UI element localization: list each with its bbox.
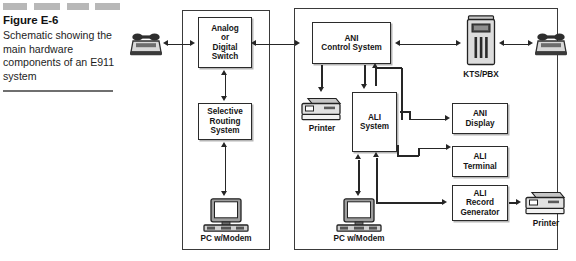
box-ali-terminal[interactable]: ALI Terminal bbox=[452, 146, 508, 177]
connector-ali-terminal-v2 bbox=[418, 148, 420, 156]
box-ali-record-generator[interactable]: ALI Record Generator bbox=[452, 185, 508, 221]
connector-ali-anidisplay-h2 bbox=[409, 119, 445, 121]
connector-anidisplay-return-h bbox=[376, 67, 402, 69]
box-ani-control-system[interactable]: ANI Control System bbox=[312, 22, 391, 64]
printer-left-icon bbox=[300, 96, 344, 122]
arrowhead-down bbox=[318, 87, 324, 92]
connector-ani-printer bbox=[321, 65, 323, 88]
connector-kts-phone bbox=[503, 44, 528, 46]
caption-divider bbox=[3, 90, 113, 92]
figure-page: Figure E-6 Schematic showing the main ha… bbox=[0, 0, 576, 261]
connector-ali-terminal-h2 bbox=[418, 148, 446, 150]
arrowhead-right bbox=[516, 199, 521, 205]
arrowhead-left bbox=[499, 40, 504, 46]
caption-pc-modem-right: PC w/Modem bbox=[319, 234, 399, 243]
box-ali-system[interactable]: ALI System bbox=[352, 92, 397, 152]
dash-segment bbox=[67, 3, 89, 10]
caption-printer-right: Printer bbox=[516, 219, 576, 228]
arrowhead-up bbox=[355, 154, 361, 159]
psap-telephone-icon bbox=[534, 31, 568, 57]
connector-switch-ani bbox=[255, 44, 295, 46]
pc-modem-right-icon bbox=[336, 198, 382, 232]
connector-ali-ani-up bbox=[375, 68, 377, 86]
arrowhead-up bbox=[221, 142, 227, 147]
connector-phone-switch bbox=[168, 44, 190, 46]
caption-kts-pbx: KTS/PBX bbox=[451, 70, 511, 79]
connector-anidisplay-return-v bbox=[401, 68, 403, 120]
arrowhead-down bbox=[221, 191, 227, 196]
connector-srs-pc bbox=[225, 147, 227, 191]
caption-printer-left: Printer bbox=[292, 124, 352, 133]
dash-segment bbox=[34, 3, 60, 10]
connector-ali-recgen-h bbox=[376, 202, 442, 204]
caller-telephone-icon bbox=[129, 31, 163, 57]
kts-pbx-icon bbox=[466, 15, 496, 68]
arrowhead-left bbox=[251, 40, 256, 46]
caption-pc-modem-left: PC w/Modem bbox=[186, 234, 266, 243]
arrowhead-left bbox=[163, 40, 168, 46]
dash-segment bbox=[95, 3, 120, 10]
arrowhead-right bbox=[442, 199, 447, 205]
connector-ali-pc bbox=[358, 160, 360, 192]
box-ani-display[interactable]: ANI Display bbox=[452, 103, 508, 134]
pc-modem-left-icon bbox=[203, 198, 249, 232]
figure-description: Schematic showing the main hardware comp… bbox=[3, 29, 121, 83]
connector-switch-srs bbox=[225, 75, 227, 96]
box-analog-or-digital-switch[interactable]: Analog or Digital Switch bbox=[198, 17, 252, 68]
arrowhead-right bbox=[528, 40, 533, 46]
arrowhead-right bbox=[190, 40, 195, 46]
arrowhead-down bbox=[361, 84, 367, 89]
arrowhead-down bbox=[355, 191, 361, 196]
figure-caption-block: Figure E-6 Schematic showing the main ha… bbox=[0, 0, 124, 261]
dash-segment bbox=[3, 3, 27, 10]
connector-ani-ali-down bbox=[364, 65, 366, 85]
arrowhead-left bbox=[395, 40, 400, 46]
connector-ani-kts bbox=[400, 44, 456, 46]
box-selective-routing-system[interactable]: Selective Routing System bbox=[198, 103, 252, 140]
decorative-dash-row bbox=[3, 3, 121, 11]
arrowhead-right bbox=[456, 40, 461, 46]
connector-ali-terminal-v1 bbox=[397, 145, 399, 156]
connector-terminal-return-v bbox=[376, 158, 378, 170]
arrowhead-right bbox=[445, 115, 450, 121]
connector-ali-terminal-h1 bbox=[397, 155, 419, 157]
printer-right-icon bbox=[524, 190, 568, 216]
arrowhead-down bbox=[221, 96, 227, 101]
arrowhead-up bbox=[221, 70, 227, 75]
arrowhead-up bbox=[373, 152, 379, 157]
figure-label: Figure E-6 bbox=[3, 14, 58, 26]
arrowhead-right bbox=[446, 144, 451, 150]
